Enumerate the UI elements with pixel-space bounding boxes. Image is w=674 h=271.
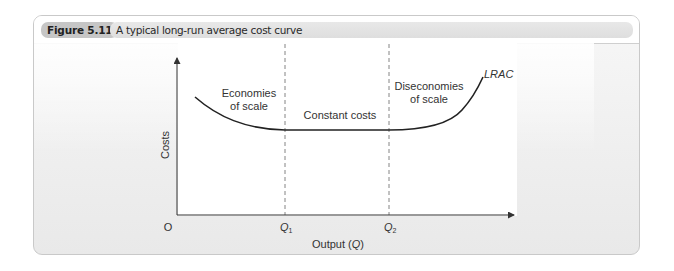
origin-label: O — [164, 221, 173, 233]
diseconomies-label-line1: Diseconomies — [394, 80, 464, 92]
lrac-chart: Economies of scale Constant costs Diseco… — [0, 0, 674, 271]
y-axis-label: Costs — [159, 130, 171, 159]
constant-costs-label: Constant costs — [304, 109, 377, 121]
economies-label-line2: of scale — [230, 100, 268, 112]
lrac-label: LRAC — [484, 68, 513, 80]
diseconomies-label-line2: of scale — [410, 93, 448, 105]
economies-label-line1: Economies — [222, 87, 277, 99]
q1-tick-label: Q1 — [280, 221, 293, 234]
q2-tick-label: Q2 — [384, 221, 397, 234]
x-axis-label: Output (Q) — [312, 238, 364, 250]
